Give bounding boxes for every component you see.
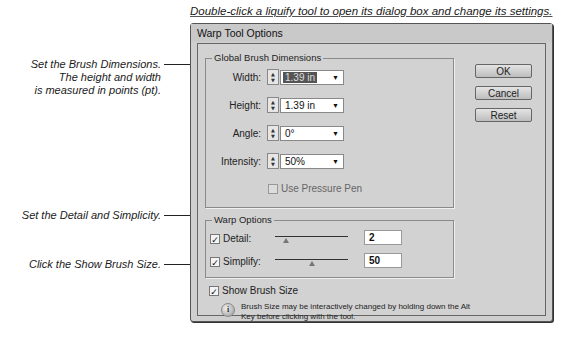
detail-row: ✓ Detail: xyxy=(210,233,251,244)
chevron-down-icon[interactable]: ▼ xyxy=(332,158,339,165)
angle-value[interactable]: 0° xyxy=(283,128,297,139)
detail-slider[interactable] xyxy=(275,234,348,244)
caption-line: is measured in points (pt). xyxy=(0,84,161,97)
detail-simplicity-caption: Set the Detail and Simplicity. xyxy=(0,209,161,222)
show-brush-size-caption: Click the Show Brush Size. xyxy=(0,258,161,271)
show-brush-size-row: ✓ Show Brush Size xyxy=(209,285,298,296)
height-row: Height: ▲▼ 1.39 in▼ xyxy=(206,97,344,113)
simplify-checkbox[interactable]: ✓ xyxy=(210,257,220,267)
angle-combo[interactable]: 0°▼ xyxy=(280,126,344,141)
detail-checkbox[interactable]: ✓ xyxy=(210,234,220,244)
intensity-value[interactable]: 50% xyxy=(283,156,307,167)
detail-label: Detail: xyxy=(223,233,251,244)
instruction-caption: Double-click a liquify tool to open its … xyxy=(190,5,552,18)
angle-spinner[interactable]: ▲▼ xyxy=(267,125,279,141)
global-brush-dimensions-group: Global Brush Dimensions Width: ▲▼ 1.39 i… xyxy=(205,58,454,208)
spin-down-icon: ▼ xyxy=(271,161,275,167)
height-combo[interactable]: 1.39 in▼ xyxy=(280,98,344,113)
simplify-input[interactable]: 50 xyxy=(364,253,402,268)
show-brush-size-label: Show Brush Size xyxy=(222,285,298,296)
slider-thumb[interactable] xyxy=(283,238,289,243)
cancel-button[interactable]: Cancel xyxy=(475,86,532,100)
width-combo[interactable]: 1.39 in▼ xyxy=(280,70,344,85)
intensity-row: Intensity: ▲▼ 50%▼ xyxy=(206,153,344,169)
chevron-down-icon[interactable]: ▼ xyxy=(332,102,339,109)
caption-line: The height and width xyxy=(0,71,161,84)
height-label: Height: xyxy=(206,100,261,111)
info-text: Brush Size may be interactively changed … xyxy=(241,302,471,322)
width-label: Width: xyxy=(206,72,261,83)
warp-options-group: Warp Options ✓ Detail: 2 ✓ Simplify: 50 xyxy=(205,220,454,278)
warp-tool-options-dialog: Warp Tool Options Global Brush Dimension… xyxy=(190,23,553,322)
spin-down-icon: ▼ xyxy=(271,77,275,83)
width-value[interactable]: 1.39 in xyxy=(283,72,317,83)
width-spinner[interactable]: ▲▼ xyxy=(267,69,279,85)
simplify-label: Simplify: xyxy=(223,256,261,267)
dialog-body: Global Brush Dimensions Width: ▲▼ 1.39 i… xyxy=(197,43,546,316)
slider-track xyxy=(275,259,348,260)
ok-button[interactable]: OK xyxy=(475,64,532,78)
simplify-slider[interactable] xyxy=(275,257,348,267)
intensity-label: Intensity: xyxy=(206,156,261,167)
show-brush-size-checkbox[interactable]: ✓ xyxy=(209,286,219,296)
intensity-combo[interactable]: 50%▼ xyxy=(280,154,344,169)
spin-down-icon: ▼ xyxy=(271,105,275,111)
height-spinner[interactable]: ▲▼ xyxy=(267,97,279,113)
group-label: Global Brush Dimensions xyxy=(212,52,323,63)
caption-line: Set the Brush Dimensions. xyxy=(0,58,161,71)
brush-dimensions-caption: Set the Brush Dimensions. The height and… xyxy=(0,58,161,97)
slider-track xyxy=(275,236,348,237)
spin-down-icon: ▼ xyxy=(271,133,275,139)
chevron-down-icon[interactable]: ▼ xyxy=(332,74,339,81)
angle-row: Angle: ▲▼ 0°▼ xyxy=(206,125,344,141)
dialog-title: Warp Tool Options xyxy=(191,24,552,42)
detail-input[interactable]: 2 xyxy=(364,230,402,245)
info-icon: i xyxy=(221,303,235,317)
simplify-row: ✓ Simplify: xyxy=(210,256,261,267)
pressure-pen-row: Use Pressure Pen xyxy=(268,183,362,194)
pressure-pen-label: Use Pressure Pen xyxy=(281,183,362,194)
slider-thumb[interactable] xyxy=(309,261,315,266)
width-row: Width: ▲▼ 1.39 in▼ xyxy=(206,69,344,85)
pressure-pen-checkbox[interactable] xyxy=(268,184,278,194)
height-value[interactable]: 1.39 in xyxy=(283,100,317,111)
angle-label: Angle: xyxy=(206,128,261,139)
group-label: Warp Options xyxy=(212,214,274,225)
chevron-down-icon[interactable]: ▼ xyxy=(332,130,339,137)
intensity-spinner[interactable]: ▲▼ xyxy=(267,153,279,169)
reset-button[interactable]: Reset xyxy=(475,108,532,122)
